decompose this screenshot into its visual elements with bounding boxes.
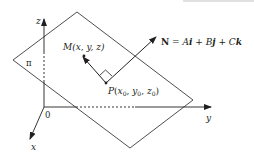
- right-angle-marker: [100, 70, 113, 76]
- plane-label: π: [26, 58, 32, 68]
- point-p: [105, 82, 108, 85]
- plane-normal-diagram: z y x 0 π M(x, y, z) P(x0, y0, z0) N = A…: [0, 0, 254, 154]
- x-axis: [30, 107, 44, 139]
- point-p-label: P(x0, y0, z0): [107, 86, 159, 97]
- origin-label: 0: [45, 110, 50, 120]
- vector-pm: [83, 57, 106, 83]
- z-axis-label: z: [35, 16, 41, 26]
- normal-vector-n: [106, 37, 156, 83]
- point-m-label: M(x, y, z): [62, 42, 105, 52]
- y-axis-label: y: [205, 113, 212, 123]
- normal-equation-label: N = Ai + Bj + Ck: [161, 37, 242, 47]
- point-m: [83, 55, 86, 58]
- x-axis-label: x: [31, 142, 36, 152]
